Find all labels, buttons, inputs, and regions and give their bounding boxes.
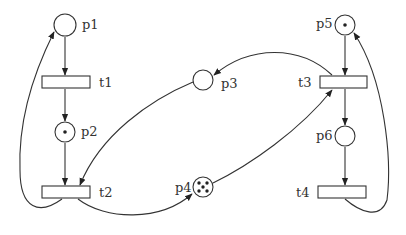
transition-label: t1 — [99, 75, 113, 90]
arc-t3-p3 — [214, 53, 332, 76]
place-p4: p4 — [175, 177, 213, 197]
place-label: p6 — [316, 128, 333, 143]
token-icon — [205, 189, 208, 192]
token-icon — [201, 185, 204, 188]
place-label: p5 — [316, 16, 333, 31]
token-icon — [197, 189, 200, 192]
token-icon — [197, 181, 200, 184]
place-circle — [54, 14, 76, 36]
place-circle — [335, 126, 355, 146]
transition-label: t2 — [99, 185, 113, 200]
place-label: p3 — [221, 76, 238, 91]
transition-t1: t1 — [42, 75, 113, 90]
place-p5: p5 — [316, 15, 355, 35]
transition-label: t3 — [298, 75, 312, 90]
transition-bar — [42, 76, 90, 88]
place-p6: p6 — [316, 126, 355, 146]
transition-bar — [42, 186, 90, 198]
token-icon — [205, 181, 208, 184]
arc-t2-p4 — [78, 194, 192, 215]
place-label: p2 — [81, 124, 98, 139]
transition-bar — [318, 186, 366, 198]
token-icon — [63, 130, 67, 134]
transition-bar — [320, 76, 367, 88]
transition-t3: t3 — [298, 75, 367, 90]
place-label: p1 — [82, 17, 99, 32]
arc-t2-p1 — [20, 32, 62, 207]
transition-t4: t4 — [296, 185, 366, 200]
transition-label: t4 — [296, 185, 310, 200]
arc-p4-t3 — [213, 90, 332, 183]
token-icon — [343, 23, 347, 27]
transition-t2: t2 — [42, 185, 113, 200]
arc-t4-p5 — [345, 33, 388, 212]
place-p2: p2 — [55, 122, 98, 142]
place-circle — [193, 70, 213, 90]
place-p3: p3 — [193, 70, 238, 91]
petri-net-diagram: p1 p2 p3 p4 p5 p6 t1 t2 t3 — [0, 0, 406, 235]
place-p1: p1 — [54, 14, 99, 36]
place-label: p4 — [175, 180, 192, 195]
